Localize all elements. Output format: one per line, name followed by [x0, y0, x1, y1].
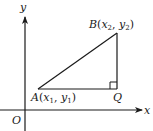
point-b-label: B(x2, y2)	[88, 18, 134, 32]
point-q-label: Q	[113, 91, 122, 104]
y-axis-label: y	[19, 1, 27, 14]
diagram-svg: y x O B(x2, y2) A(x1, y1) Q	[0, 0, 153, 131]
coordinate-diagram: y x O B(x2, y2) A(x1, y1) Q	[0, 0, 153, 131]
x-axis-label: x	[144, 104, 151, 117]
point-b-name: B	[88, 18, 97, 31]
point-a-name: A	[30, 91, 39, 104]
point-a-label: A(x1, y1)	[30, 91, 76, 105]
segment-ab	[38, 33, 117, 89]
origin-label: O	[12, 114, 21, 127]
right-angle-marker	[110, 82, 117, 89]
